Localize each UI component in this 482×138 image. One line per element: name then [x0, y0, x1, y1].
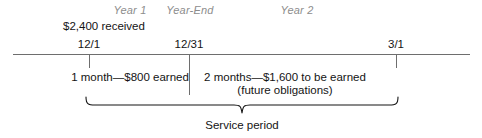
period-label-year-1: Year 1	[113, 4, 146, 16]
segment-earned-revenue-line-1: 1 month—$800 earned	[71, 71, 189, 84]
date-label-start: 12/1	[78, 38, 100, 50]
date-label-year-end: 12/31	[175, 38, 204, 50]
tick-mark-year-end-divider	[189, 55, 190, 95]
segment-unearned-revenue: 2 months—$1,600 to be earned (future obl…	[204, 71, 366, 97]
tick-mark-end	[396, 55, 397, 68]
service-period-brace	[84, 96, 402, 120]
timeline-axis	[13, 54, 470, 55]
period-label-year-end: Year-End	[166, 4, 213, 16]
date-label-end: 3/1	[388, 38, 404, 50]
tick-mark-start	[89, 55, 90, 68]
period-label-year-2: Year 2	[280, 4, 313, 16]
segment-earned-revenue: 1 month—$800 earned	[71, 71, 189, 84]
service-period-timeline-figure: Year 1 Year-End Year 2 $2,400 received 1…	[0, 0, 482, 138]
segment-unearned-revenue-line-1: 2 months—$1,600 to be earned	[204, 71, 366, 84]
service-period-caption: Service period	[205, 119, 279, 131]
service-period-brace-icon	[84, 96, 402, 116]
cash-received-label: $2,400 received	[63, 20, 145, 32]
